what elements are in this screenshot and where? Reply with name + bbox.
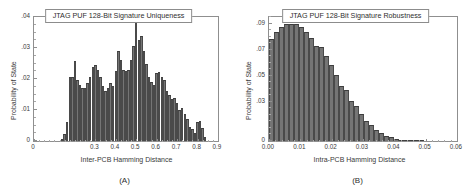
x-tick-minor: [307, 140, 308, 142]
panel-a-bars: [34, 17, 218, 141]
panel-b-robustness: JTAG PUF 128-Bit Signature Robustness Pr…: [237, 0, 474, 195]
x-tick-minor: [338, 140, 339, 142]
x-tick: [198, 139, 199, 142]
x-tick-label: 0.06: [444, 144, 468, 150]
y-tick-minor: [269, 94, 271, 95]
y-tick-minor: [34, 70, 36, 71]
x-tick-minor: [382, 140, 383, 142]
x-tick: [426, 139, 427, 142]
x-tick-label: 0.04: [381, 144, 405, 150]
x-tick: [136, 139, 137, 142]
x-tick-label: 0.03: [350, 144, 374, 150]
x-tick-minor: [369, 140, 370, 142]
panel-a-xlabel: Inter-PCB Hamming Distance: [8, 156, 245, 163]
y-tick-label: .02: [15, 75, 30, 81]
x-tick-label: 0.01: [287, 144, 311, 150]
y-tick-minor: [34, 125, 36, 126]
x-tick-minor: [282, 140, 283, 142]
y-tick-minor: [34, 94, 36, 95]
x-tick-minor: [419, 140, 420, 142]
x-tick-label: 0: [21, 144, 45, 150]
y-tick: [34, 47, 37, 48]
x-tick-minor: [172, 140, 173, 142]
y-tick-minor: [269, 114, 271, 115]
x-tick-minor: [438, 140, 439, 142]
x-tick-minor: [288, 140, 289, 142]
x-tick-minor: [407, 140, 408, 142]
x-tick: [394, 139, 395, 142]
y-tick-minor: [269, 68, 271, 69]
x-tick-minor: [376, 140, 377, 142]
panel-a-axes: [33, 16, 219, 142]
y-tick-minor: [269, 127, 271, 128]
y-tick-label: .03: [15, 44, 30, 50]
x-tick-minor: [401, 140, 402, 142]
y-tick-minor: [269, 55, 271, 56]
y-tick-minor: [34, 39, 36, 40]
x-tick-minor: [319, 140, 320, 142]
x-tick-minor: [432, 140, 433, 142]
x-tick-minor: [80, 140, 81, 142]
x-tick-minor: [413, 140, 414, 142]
x-tick-minor: [357, 140, 358, 142]
y-tick-minor: [34, 86, 36, 87]
y-tick-minor: [269, 62, 271, 63]
x-tick-minor: [90, 140, 91, 142]
x-tick-minor: [85, 140, 86, 142]
x-tick: [300, 139, 301, 142]
x-tick-label: 0.00: [256, 144, 280, 150]
panel-a-uniqueness: JTAG PUF 128-Bit Signature Uniqueness Pr…: [0, 0, 237, 195]
x-tick-minor: [54, 140, 55, 142]
y-tick: [34, 140, 37, 141]
x-tick-minor: [208, 140, 209, 142]
panel-a-subcaption: (A): [6, 176, 243, 185]
x-tick: [177, 139, 178, 142]
y-tick-minor: [34, 63, 36, 64]
y-tick: [34, 109, 37, 110]
y-tick-minor: [34, 24, 36, 25]
y-tick-minor: [269, 81, 271, 82]
y-tick: [269, 75, 272, 76]
y-tick-minor: [34, 117, 36, 118]
x-tick-minor: [106, 140, 107, 142]
x-tick-minor: [141, 140, 142, 142]
x-tick: [116, 139, 117, 142]
x-tick-minor: [313, 140, 314, 142]
x-tick: [457, 139, 458, 142]
y-tick-minor: [269, 16, 271, 17]
y-tick-label: .01: [15, 106, 30, 112]
x-tick-minor: [451, 140, 452, 142]
x-tick-minor: [70, 140, 71, 142]
panel-a-title: JTAG PUF 128-Bit Signature Uniqueness: [45, 9, 193, 23]
x-tick: [157, 139, 158, 142]
x-tick-minor: [294, 140, 295, 142]
x-tick-minor: [213, 140, 214, 142]
panel-b-bars: [269, 17, 457, 141]
x-tick-minor: [75, 140, 76, 142]
panel-b-title: JTAG PUF 128-Bit Signature Robustness: [282, 9, 430, 23]
x-tick: [95, 139, 96, 142]
x-tick: [363, 139, 364, 142]
y-tick-minor: [269, 120, 271, 121]
panel-b-subcaption: (B): [239, 176, 474, 185]
x-tick-minor: [131, 140, 132, 142]
y-tick-label: .07: [250, 46, 265, 52]
y-tick-minor: [269, 133, 271, 134]
x-tick-minor: [344, 140, 345, 142]
x-tick-label: 0.9: [205, 144, 229, 150]
y-tick-minor: [34, 32, 36, 33]
x-tick-minor: [275, 140, 276, 142]
y-tick-minor: [269, 107, 271, 108]
y-tick-minor: [269, 36, 271, 37]
panel-b-xlabel: Intra-PCB Hamming Distance: [241, 156, 474, 163]
x-tick-minor: [187, 140, 188, 142]
x-tick-minor: [350, 140, 351, 142]
x-tick-minor: [121, 140, 122, 142]
y-tick-label: .04: [15, 13, 30, 19]
x-tick-minor: [388, 140, 389, 142]
y-tick-label: .09: [250, 20, 265, 26]
y-tick: [34, 78, 37, 79]
x-tick-minor: [100, 140, 101, 142]
x-tick-minor: [146, 140, 147, 142]
x-tick-label: 0.05: [413, 144, 437, 150]
